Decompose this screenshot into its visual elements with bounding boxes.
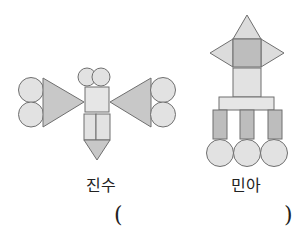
triangle-shape	[233, 15, 261, 39]
rectangle-shape	[96, 114, 110, 140]
triangle-shape	[110, 78, 151, 127]
circle-shape	[151, 102, 176, 127]
triangle-shape	[210, 39, 233, 67]
rectangle-shape	[233, 68, 261, 97]
circle-shape	[234, 140, 261, 167]
rectangle-shape	[84, 114, 96, 140]
rectangle-shape	[213, 110, 227, 139]
circle-shape	[19, 102, 44, 127]
square-shape	[233, 39, 261, 67]
rectangle-shape	[268, 110, 282, 139]
square-shape	[85, 87, 109, 112]
label-mina: 민아	[231, 172, 261, 196]
shape-figures	[0, 0, 307, 240]
circle-shape	[151, 78, 176, 103]
triangle-shape	[84, 140, 110, 160]
rectangle-shape	[240, 110, 254, 139]
circle-shape	[261, 140, 288, 167]
triangle-shape	[261, 39, 284, 67]
rectangle-shape	[219, 97, 274, 110]
answer-open-paren: (	[114, 202, 123, 227]
circle-shape	[207, 140, 234, 167]
circle-shape	[92, 68, 110, 86]
figure-jinsu	[19, 68, 176, 160]
triangle-shape	[43, 78, 84, 127]
circle-shape	[19, 78, 44, 103]
answer-close-paren: )	[284, 202, 293, 227]
figure-mina	[207, 15, 288, 167]
label-jinsu: 진수	[86, 172, 116, 196]
